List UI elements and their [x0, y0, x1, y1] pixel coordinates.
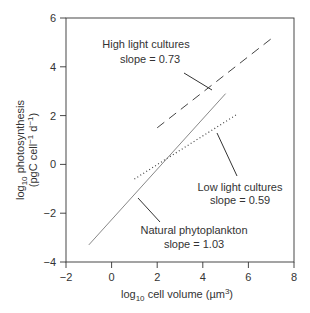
svg-text:slope = 0.59: slope = 0.59 [210, 194, 270, 206]
x-tick-label: 8 [291, 271, 297, 283]
series-low-light-cultures [134, 114, 237, 179]
svg-text:Natural phytoplankton: Natural phytoplankton [140, 224, 247, 236]
svg-text:Low light cultures: Low light cultures [198, 181, 283, 193]
y-axis-label: log10 photosynthesis (pgC cell−1 d−1) [14, 99, 39, 200]
y-tick-label: 4 [50, 61, 56, 73]
annotation-low-light: Low light cultures slope = 0.59 [198, 181, 283, 206]
y-tick: 2 [50, 110, 66, 122]
series-layer [89, 39, 271, 245]
y-tick-label: −2 [43, 207, 56, 219]
svg-text:(pgC cell−1 d−1): (pgC cell−1 d−1) [26, 113, 39, 188]
y-tick: 0 [50, 158, 66, 170]
x-tick: 0 [109, 262, 115, 283]
leader-high-light [184, 73, 212, 90]
x-axis-label: log10 cell volume (µm3) [121, 287, 233, 303]
series-natural-phytoplankton [89, 94, 226, 245]
x-tick-label: 0 [109, 271, 115, 283]
x-tick: 6 [245, 262, 251, 283]
x-axis: −2 0 2 4 6 8 [60, 262, 297, 283]
x-tick: 4 [200, 262, 206, 283]
x-tick-label: 2 [154, 271, 160, 283]
annotation-high-light: High light cultures slope = 0.73 [102, 38, 190, 65]
x-tick-label: 4 [200, 271, 206, 283]
y-tick: 6 [50, 12, 66, 24]
svg-text:slope = 1.03: slope = 1.03 [164, 238, 224, 250]
leader-low-light [217, 133, 237, 176]
svg-text:High light cultures: High light cultures [102, 38, 190, 50]
y-tick-label: 6 [50, 12, 56, 24]
x-tick: 8 [291, 262, 297, 283]
x-tick-label: 6 [245, 271, 251, 283]
leader-natural [138, 198, 160, 222]
y-tick: −4 [43, 256, 66, 268]
y-tick: 4 [50, 61, 66, 73]
x-tick: 2 [154, 262, 160, 283]
y-tick-label: 2 [50, 110, 56, 122]
y-axis: −4 −2 0 2 4 6 [43, 12, 66, 268]
y-tick: −2 [43, 207, 66, 219]
y-tick-label: −4 [43, 256, 56, 268]
x-tick-label: −2 [60, 271, 73, 283]
chart: −4 −2 0 2 4 6 −2 0 [0, 0, 310, 313]
svg-text:slope = 0.73: slope = 0.73 [120, 53, 180, 65]
annotation-natural: Natural phytoplankton slope = 1.03 [140, 224, 247, 250]
x-tick: −2 [60, 262, 73, 283]
y-tick-label: 0 [50, 158, 56, 170]
